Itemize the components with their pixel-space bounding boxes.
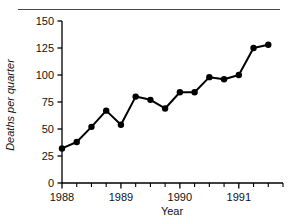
data-point-markers xyxy=(59,42,272,152)
figure-container: 02550751001251501988198919901991 Year De… xyxy=(0,0,296,222)
y-axis-ticks xyxy=(58,21,63,183)
data-point xyxy=(265,42,271,48)
y-axis-title: Deaths per quarter xyxy=(4,58,16,151)
x-axis-title: Year xyxy=(161,205,184,217)
y-tick-label: 0 xyxy=(48,177,54,189)
line-chart: 02550751001251501988198919901991 Year De… xyxy=(0,0,296,222)
x-axis-ticks xyxy=(62,183,283,189)
data-point xyxy=(88,124,94,130)
y-tick-label: 75 xyxy=(42,96,54,108)
series-polyline xyxy=(62,45,268,149)
data-point xyxy=(74,139,80,145)
data-point xyxy=(147,97,153,103)
y-tick-label: 50 xyxy=(42,123,54,135)
y-tick-label: 125 xyxy=(36,42,54,54)
data-point xyxy=(250,45,256,51)
data-point xyxy=(118,121,124,127)
data-point xyxy=(236,72,242,78)
data-point xyxy=(103,107,109,113)
x-tick-label: 1990 xyxy=(168,191,192,203)
axis-spine xyxy=(62,21,283,183)
x-tick-label: 1991 xyxy=(227,191,251,203)
data-point xyxy=(177,89,183,95)
y-tick-label: 100 xyxy=(36,69,54,81)
data-series-line xyxy=(62,45,268,149)
x-tick-label: 1989 xyxy=(109,191,133,203)
chart-axes xyxy=(62,21,283,183)
x-tick-label: 1988 xyxy=(50,191,74,203)
data-point xyxy=(206,74,212,80)
data-point xyxy=(59,145,65,151)
data-point xyxy=(162,105,168,111)
data-point xyxy=(221,76,227,82)
top-horizontal-rule xyxy=(18,9,280,10)
data-point xyxy=(132,93,138,99)
axis-tick-labels: 02550751001251501988198919901991 xyxy=(36,15,251,203)
y-tick-label: 25 xyxy=(42,150,54,162)
y-tick-label: 150 xyxy=(36,15,54,27)
data-point xyxy=(191,89,197,95)
